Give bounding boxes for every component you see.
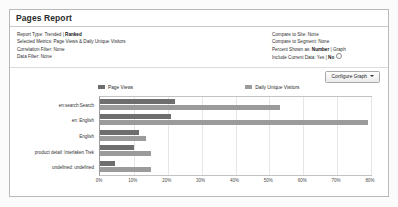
report-setting-left-3: Data Filter: None bbox=[17, 53, 126, 60]
legend-swatch-icon bbox=[98, 85, 105, 89]
report-setting-value: None bbox=[318, 39, 329, 44]
report-setting-right-2: Percent Shown as: Number | Graph bbox=[272, 46, 346, 53]
legend-item: Daily Unique Visitors bbox=[245, 85, 299, 90]
x-axis-tick-label: 80% bbox=[365, 178, 374, 183]
chart-bar bbox=[100, 105, 280, 110]
x-axis-tick-label: 10% bbox=[128, 178, 137, 183]
report-setting-value: Trended | bbox=[44, 32, 65, 37]
report-setting-left-0: Report Type: Trended | Ranked bbox=[17, 31, 126, 38]
report-setting-value: | Graph bbox=[329, 47, 346, 52]
chart-plot-area bbox=[99, 96, 372, 176]
chevron-down-icon bbox=[370, 75, 374, 77]
chart-bar bbox=[100, 167, 151, 172]
report-setting-value: None bbox=[308, 32, 319, 37]
report-settings-right-column: Compare to Site: NoneCompare to Segment:… bbox=[272, 31, 346, 61]
report-setting-label: Compare to Site: bbox=[272, 32, 308, 37]
report-setting-value-selected: Number bbox=[312, 47, 329, 52]
y-axis-label: English bbox=[79, 134, 94, 139]
legend-item: Page Views bbox=[98, 85, 133, 90]
report-setting-left-1: Selected Metrics: Page Views & Daily Uni… bbox=[17, 38, 126, 45]
page-background: Pages Report Report Type: Trended | Rank… bbox=[0, 0, 398, 207]
report-setting-right-1: Compare to Segment: None bbox=[272, 38, 346, 45]
chart-bar-group bbox=[100, 159, 371, 175]
report-setting-value: None bbox=[54, 47, 65, 52]
legend-label: Page Views bbox=[108, 85, 133, 90]
report-settings-left-column: Report Type: Trended | RankedSelected Me… bbox=[17, 31, 126, 60]
chart-bar-group bbox=[100, 113, 371, 129]
y-axis-label: en: English bbox=[72, 118, 94, 123]
x-axis-tick-label: 30% bbox=[196, 178, 205, 183]
x-axis-tick-label: 60% bbox=[298, 178, 307, 183]
y-axis-label: en:search:Search bbox=[59, 102, 94, 107]
chart-bar-group bbox=[100, 128, 371, 144]
report-setting-value: Yes | bbox=[317, 55, 328, 60]
report-setting-left-2: Correlation Filter: None bbox=[17, 46, 126, 53]
configure-graph-button[interactable]: Configure Graph bbox=[325, 71, 380, 83]
report-setting-value: Page Views & Daily Unique Visitors bbox=[54, 39, 126, 44]
chart-x-axis-labels: 0%10%20%30%40%50%60%70%80% bbox=[99, 178, 372, 188]
chart-bar bbox=[100, 130, 139, 135]
chart-bar bbox=[100, 145, 134, 150]
report-setting-label: Data Filter: bbox=[17, 54, 41, 59]
chart-bar bbox=[100, 136, 146, 141]
configure-graph-label: Configure Graph bbox=[332, 74, 367, 79]
report-setting-label: Report Type: bbox=[17, 32, 44, 37]
chart-bar bbox=[100, 114, 171, 119]
pages-report-panel: Pages Report Report Type: Trended | Rank… bbox=[9, 9, 389, 197]
legend-label: Daily Unique Visitors bbox=[255, 85, 299, 90]
report-setting-label: Correlation Filter: bbox=[17, 47, 54, 52]
graph-region: Configure Graph Page ViewsDaily Unique V… bbox=[10, 68, 388, 196]
chart-bar bbox=[100, 99, 175, 104]
report-setting-label: Compare to Segment: bbox=[272, 39, 318, 44]
chart-bar-group bbox=[100, 97, 371, 113]
x-axis-tick-label: 20% bbox=[162, 178, 171, 183]
chart-y-axis-labels: en:search:Searchen: EnglishEnglishproduc… bbox=[18, 96, 97, 176]
report-setting-label: Selected Metrics: bbox=[17, 39, 54, 44]
y-axis-label: product detail: Interlaken Trek bbox=[35, 149, 94, 154]
x-axis-tick-label: 40% bbox=[230, 178, 239, 183]
report-setting-label: Percent Shown as: bbox=[272, 47, 312, 52]
info-radio-icon[interactable] bbox=[336, 53, 342, 59]
y-axis-label: undefined: undefined bbox=[52, 165, 94, 170]
x-axis-tick-label: 50% bbox=[264, 178, 273, 183]
chart-bar bbox=[100, 161, 115, 166]
report-setting-value-selected: Ranked bbox=[65, 32, 82, 37]
report-setting-value-selected: No bbox=[328, 55, 334, 60]
page-title: Pages Report bbox=[10, 10, 388, 27]
chart-legend: Page ViewsDaily Unique Visitors bbox=[98, 85, 299, 90]
report-settings-region: Report Type: Trended | RankedSelected Me… bbox=[10, 27, 388, 68]
gridline bbox=[371, 97, 372, 175]
chart-bar bbox=[100, 151, 151, 156]
report-setting-right-0: Compare to Site: None bbox=[272, 31, 346, 38]
report-setting-label: Include Current Data: bbox=[272, 55, 317, 60]
report-setting-value: None bbox=[41, 54, 52, 59]
x-axis-tick-label: 70% bbox=[332, 178, 341, 183]
x-axis-tick-label: 0% bbox=[96, 178, 103, 183]
chart-bar bbox=[100, 120, 368, 125]
chart-bar-group bbox=[100, 144, 371, 160]
legend-swatch-icon bbox=[245, 85, 252, 89]
report-setting-right-3: Include Current Data: Yes | No bbox=[272, 53, 346, 61]
chart-bars bbox=[100, 97, 371, 175]
